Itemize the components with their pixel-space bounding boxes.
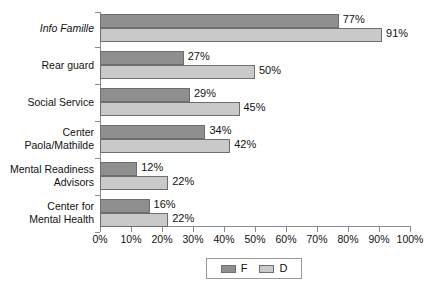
bar-value-label: 16% <box>154 197 176 211</box>
bar-value-label: 91% <box>386 26 408 40</box>
category-label: Center forMental Health <box>0 200 94 226</box>
category-label-line: Mental Readiness <box>0 163 94 176</box>
bar-row: 16% <box>100 199 410 213</box>
bar-value-label: 29% <box>194 86 216 100</box>
bar-value-label: 22% <box>172 174 194 188</box>
legend-entry-f: F <box>221 263 248 274</box>
bar-value-label: 22% <box>172 211 194 225</box>
legend-label: D <box>279 263 287 274</box>
bar-d <box>100 176 168 190</box>
legend-entry-d: D <box>259 263 287 274</box>
x-axis-tick <box>348 227 349 232</box>
bar-value-label: 50% <box>259 63 281 77</box>
category-label-line: Rear guard <box>0 59 94 72</box>
legend-label: F <box>241 263 248 274</box>
x-axis-tick <box>162 227 163 232</box>
legend-swatch-icon <box>221 265 236 273</box>
x-axis-tick <box>286 227 287 232</box>
bar-d <box>100 213 168 227</box>
bar-d <box>100 28 382 42</box>
bar-row: 42% <box>100 139 410 153</box>
bar-value-label: 42% <box>234 137 256 151</box>
bar-row: 27% <box>100 51 410 65</box>
legend-swatch-icon <box>259 265 274 273</box>
bar-f <box>100 199 150 213</box>
bar-row: 77% <box>100 14 410 28</box>
bar-group: 12%22% <box>100 162 410 190</box>
bar-f <box>100 14 339 28</box>
bar-d <box>100 102 240 116</box>
category-label-line: Advisors <box>0 176 94 189</box>
bar-row: 50% <box>100 65 410 79</box>
category-label: Social Service <box>0 96 94 109</box>
bar-value-label: 77% <box>343 12 365 26</box>
bar-row: 22% <box>100 213 410 227</box>
category-label-line: Social Service <box>0 96 94 109</box>
bar-f <box>100 125 205 139</box>
bar-d <box>100 139 230 153</box>
x-axis-tick <box>255 227 256 232</box>
bar-group: 16%22% <box>100 199 410 227</box>
x-axis-tick <box>193 227 194 232</box>
x-axis-tick <box>379 227 380 232</box>
bar-value-label: 34% <box>209 123 231 137</box>
bar-f <box>100 51 184 65</box>
bar-d <box>100 65 255 79</box>
category-label-line: Center for <box>0 200 94 213</box>
bar-value-label: 27% <box>188 49 210 63</box>
bar-row: 22% <box>100 176 410 190</box>
bar-chart: Info FamilleRear guardSocial ServiceCent… <box>0 0 426 288</box>
category-label-line: Paola/Mathilde <box>0 139 94 152</box>
bar-row: 12% <box>100 162 410 176</box>
x-axis-tick <box>317 227 318 232</box>
bar-value-label: 12% <box>141 160 163 174</box>
bar-group: 34%42% <box>100 125 410 153</box>
bar-value-label: 45% <box>244 100 266 114</box>
category-label: Mental ReadinessAdvisors <box>0 163 94 189</box>
bar-group: 27%50% <box>100 51 410 79</box>
chart-legend: FD <box>206 258 302 279</box>
bar-group: 77%91% <box>100 14 410 42</box>
bar-group: 29%45% <box>100 88 410 116</box>
bar-row: 91% <box>100 28 410 42</box>
y-axis-tick <box>95 12 100 13</box>
x-axis-tick <box>224 227 225 232</box>
plot-area: 77%91%27%50%29%45%34%42%12%22%16%22% <box>100 14 410 226</box>
x-axis-tick <box>100 227 101 232</box>
category-label-line: Center <box>0 126 94 139</box>
x-axis-tick <box>131 227 132 232</box>
category-label-line: Mental Health <box>0 213 94 226</box>
bar-f <box>100 88 190 102</box>
bar-row: 45% <box>100 102 410 116</box>
category-label: CenterPaola/Mathilde <box>0 126 94 152</box>
category-label: Rear guard <box>0 59 94 72</box>
x-axis-tick <box>410 227 411 232</box>
category-label: Info Famille <box>0 22 94 35</box>
category-label-line: Info Famille <box>0 22 94 35</box>
bar-f <box>100 162 137 176</box>
x-axis-tick-label: 100% <box>390 233 426 246</box>
